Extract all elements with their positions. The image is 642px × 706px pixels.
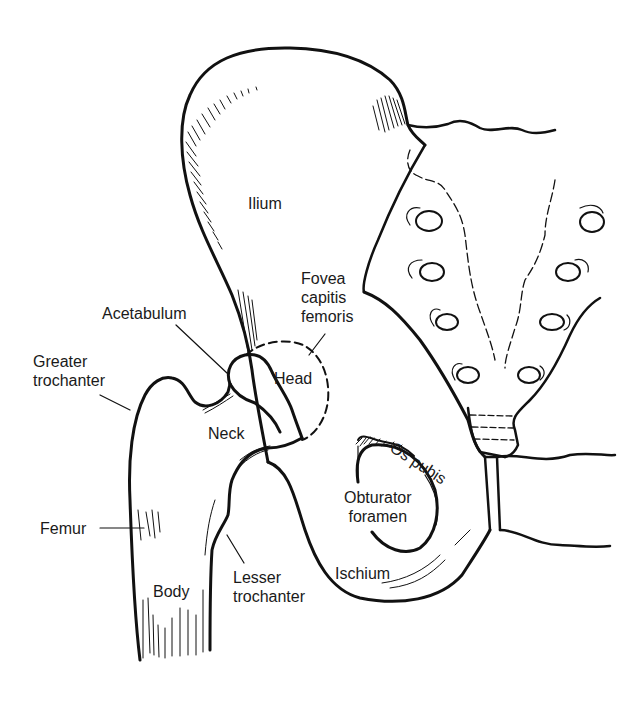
foramina-rims	[407, 205, 603, 380]
sacral-foramina	[416, 211, 604, 383]
label-neck: Neck	[208, 424, 244, 443]
label-lesser-trochanter: Lesser trochanter	[233, 568, 305, 606]
femur-hatching	[138, 394, 270, 658]
ilium-bone	[182, 48, 425, 462]
label-ischium: Ischium	[335, 564, 390, 583]
ilium-hatching	[186, 87, 257, 249]
ilium-sacral-hatching	[373, 96, 405, 132]
label-femur: Femur	[40, 519, 86, 538]
label-ilium: Ilium	[248, 194, 282, 213]
sacrum-bone	[364, 121, 604, 457]
label-acetabulum: Acetabulum	[102, 304, 187, 323]
label-head: Head	[274, 369, 312, 388]
femur-bone	[130, 341, 329, 660]
label-fovea-capitis-femoris: Fovea capitis femoris	[301, 269, 353, 326]
label-obturator-foramen: Obturator foramen	[344, 488, 412, 526]
label-greater-trochanter: Greater trochanter	[33, 352, 105, 390]
label-body: Body	[153, 582, 189, 601]
